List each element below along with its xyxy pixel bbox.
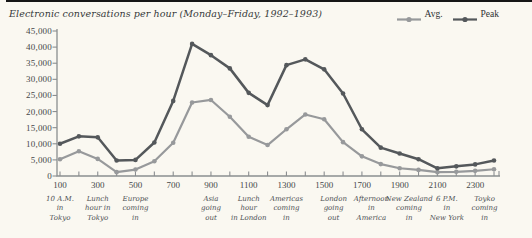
data-point-marker (416, 157, 421, 162)
data-point-marker (133, 167, 138, 172)
data-point-marker (341, 91, 346, 96)
data-point-marker (209, 53, 214, 58)
data-point-marker (58, 157, 63, 162)
data-point-marker (209, 98, 214, 103)
data-point-marker (378, 162, 383, 167)
x-axis-label: 2100 (417, 180, 457, 190)
data-point-marker (303, 112, 308, 117)
data-point-marker (190, 42, 195, 47)
x-axis-label: 1500 (304, 180, 344, 190)
data-point-marker (360, 154, 365, 159)
data-point-marker (171, 141, 176, 146)
data-point-marker (397, 166, 402, 171)
y-axis-label: 40,000 (0, 42, 52, 52)
x-annotation: Europe coming in (104, 195, 166, 223)
y-axis-label: 45,000 (0, 26, 52, 36)
x-axis-label: 1900 (380, 180, 420, 190)
data-point-marker (133, 158, 138, 163)
data-point-marker (58, 141, 63, 146)
axis-lines (57, 29, 500, 176)
data-point-marker (152, 159, 157, 164)
data-point-marker (454, 164, 459, 169)
x-axis-label: 2300 (455, 180, 495, 190)
x-annotation: Toyko coming in (454, 195, 516, 223)
data-point-marker (77, 149, 82, 154)
x-axis-label: 100 (40, 180, 80, 190)
data-point-marker (492, 158, 497, 163)
data-point-marker (435, 166, 440, 171)
data-point-marker (303, 57, 308, 62)
data-point-marker (228, 66, 233, 71)
data-point-marker (492, 167, 497, 172)
data-point-marker (473, 162, 478, 167)
x-axis-label: 1700 (342, 180, 382, 190)
y-axis-label: 25,000 (0, 90, 52, 100)
data-point-marker (265, 143, 270, 148)
data-point-marker (114, 158, 119, 163)
y-axis-label: 10,000 (0, 139, 52, 149)
series-line-peak (60, 44, 494, 168)
data-point-marker (95, 157, 100, 162)
x-axis-label: 700 (153, 180, 193, 190)
y-axis-label: 30,000 (0, 74, 52, 84)
x-axis-label: 1300 (266, 180, 306, 190)
data-point-marker (265, 103, 270, 108)
y-axis-label: 5,000 (0, 155, 52, 165)
data-point-marker (284, 127, 289, 132)
data-point-marker (246, 134, 251, 139)
data-point-marker (397, 151, 402, 156)
data-point-marker (246, 91, 251, 96)
data-point-marker (95, 135, 100, 140)
data-point-marker (228, 114, 233, 119)
x-axis-label: 300 (78, 180, 118, 190)
data-point-marker (77, 134, 82, 139)
x-axis-label: 1100 (229, 180, 269, 190)
y-axis-label: 15,000 (0, 123, 52, 133)
chart-figure: Electronic conversations per hour (Monda… (0, 0, 532, 238)
y-axis-label: 35,000 (0, 58, 52, 68)
data-point-marker (473, 169, 478, 174)
data-point-marker (322, 117, 327, 122)
data-point-marker (114, 170, 119, 175)
data-point-marker (322, 67, 327, 72)
data-point-marker (360, 127, 365, 132)
data-point-marker (341, 140, 346, 145)
x-axis-label: 500 (115, 180, 155, 190)
data-point-marker (416, 168, 421, 173)
y-axis-label: 20,000 (0, 107, 52, 117)
data-point-marker (378, 145, 383, 150)
data-point-marker (190, 100, 195, 105)
x-axis-label: 900 (191, 180, 231, 190)
data-point-marker (171, 99, 176, 104)
data-point-marker (454, 170, 459, 175)
data-point-marker (152, 140, 157, 145)
data-point-marker (284, 63, 289, 68)
